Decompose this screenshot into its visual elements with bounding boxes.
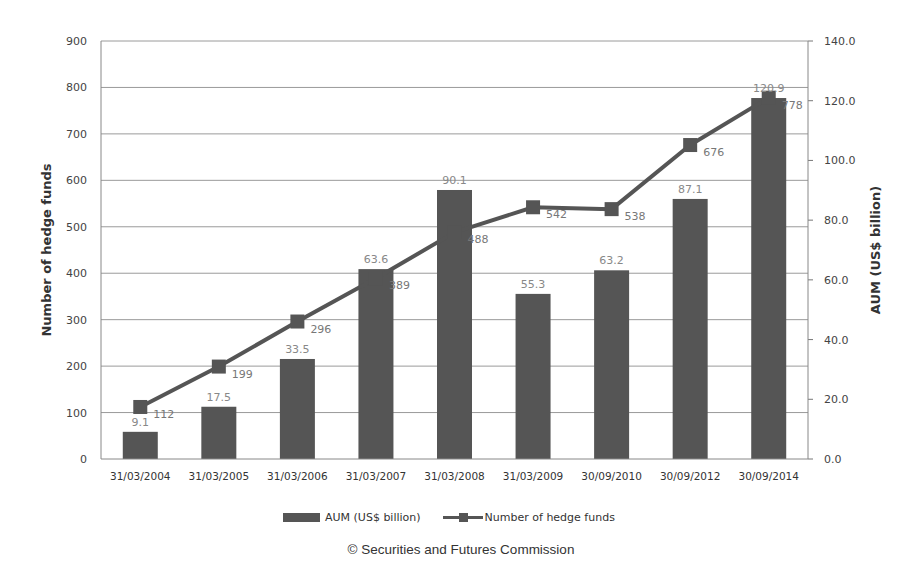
aum-bar	[123, 432, 158, 459]
hedge-fund-count-label: 296	[310, 323, 331, 336]
x-axis-tick: 31/03/2008	[424, 470, 485, 482]
hedge-fund-marker	[683, 138, 697, 152]
aum-bar	[751, 98, 786, 459]
aum-bar	[594, 270, 629, 459]
aum-bar	[673, 199, 708, 459]
left-axis-tick: 100	[66, 407, 87, 420]
hedge-fund-count-label: 199	[232, 368, 253, 381]
hedge-fund-marker	[290, 315, 304, 329]
legend-item-aum: AUM (US$ billion)	[283, 511, 421, 524]
aum-bar	[280, 359, 315, 459]
x-axis-tick: 30/09/2012	[660, 470, 721, 482]
left-axis-tick: 500	[66, 221, 87, 234]
hedge-fund-count-label: 488	[468, 233, 489, 246]
hedge-fund-marker	[369, 271, 383, 285]
left-axis-tick: 200	[66, 360, 87, 373]
legend-label-aum: AUM (US$ billion)	[325, 511, 421, 524]
right-axis-tick: 0.0	[824, 453, 842, 466]
right-axis-tick: 120.0	[824, 95, 856, 108]
x-axis-tick: 31/03/2005	[189, 470, 250, 482]
x-axis-tick: 31/03/2009	[503, 470, 564, 482]
hedge-fund-marker	[448, 225, 462, 239]
left-axis-tick: 0	[80, 453, 87, 466]
aum-bar-label: 63.6	[364, 253, 389, 266]
hedge-fund-marker	[212, 360, 226, 374]
x-axis-tick: 31/03/2006	[267, 470, 328, 482]
hedge-fund-marker	[605, 202, 619, 216]
aum-bar	[358, 269, 393, 459]
hedge-fund-marker	[526, 200, 540, 214]
legend-item-hedge-funds: Number of hedge funds	[443, 511, 615, 524]
aum-bar-label: 33.5	[285, 343, 310, 356]
source-credit: © Securities and Futures Commission	[0, 542, 922, 557]
right-axis-tick: 60.0	[824, 274, 849, 287]
left-axis-title: Number of hedge funds	[39, 163, 54, 336]
aum-bars	[123, 98, 786, 459]
hedge-fund-count-label: 538	[625, 210, 646, 223]
left-axis-tick: 600	[66, 174, 87, 187]
right-axis-tick: 100.0	[824, 154, 856, 167]
aum-bar-label: 63.2	[599, 254, 624, 267]
hedge-fund-count-label: 778	[782, 99, 803, 112]
legend: AUM (US$ billion) Number of hedge funds	[283, 511, 637, 524]
left-axis-tick: 400	[66, 267, 87, 280]
hedge-fund-chart: 01002003004005006007008009000.020.040.06…	[0, 0, 922, 505]
right-axis-tick: 20.0	[824, 393, 849, 406]
aum-bar	[201, 407, 236, 459]
aum-bar	[516, 294, 551, 459]
right-axis-tick: 40.0	[824, 334, 849, 347]
aum-bar-label: 17.5	[207, 391, 232, 404]
hedge-fund-count-label: 112	[153, 408, 174, 421]
right-axis-tick: 80.0	[824, 214, 849, 227]
x-axis-tick: 30/09/2014	[738, 470, 799, 482]
aum-bar-label: 55.3	[521, 278, 546, 291]
aum-bar-label: 9.1	[132, 416, 150, 429]
hedge-fund-marker	[133, 400, 147, 414]
aum-bar-label: 90.1	[442, 174, 467, 187]
left-axis-tick: 900	[66, 35, 87, 48]
aum-bar-label: 87.1	[678, 183, 703, 196]
left-axis-tick: 700	[66, 128, 87, 141]
bar-swatch-icon	[283, 513, 320, 522]
line-marker-swatch-icon	[443, 513, 483, 522]
x-axis-tick: 30/09/2010	[581, 470, 642, 482]
x-axis-tick: 31/03/2007	[346, 470, 407, 482]
left-axis-tick: 800	[66, 81, 87, 94]
hedge-fund-count-label: 542	[546, 208, 567, 221]
left-axis-tick: 300	[66, 314, 87, 327]
hedge-fund-count-label: 676	[703, 146, 724, 159]
x-axis-tick: 31/03/2004	[110, 470, 171, 482]
legend-label-hedge-funds: Number of hedge funds	[485, 511, 615, 524]
aum-bar-label: 120.9	[753, 82, 785, 95]
right-axis-tick: 140.0	[824, 35, 856, 48]
hedge-fund-count-label: 389	[389, 279, 410, 292]
right-axis-title: AUM (US$ billion)	[868, 186, 883, 314]
